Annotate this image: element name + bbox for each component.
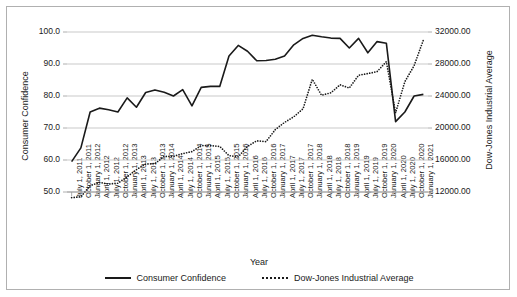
series-line-consumer-confidence <box>72 35 424 161</box>
plot-area <box>7 7 511 291</box>
chart-legend: Consumer Confidence Dow-Jones Industrial… <box>7 273 511 283</box>
gridlines <box>67 32 428 192</box>
legend-item-dow-jones: Dow-Jones Industrial Average <box>262 273 413 283</box>
legend-item-consumer-confidence: Consumer Confidence <box>105 273 227 283</box>
legend-dotted-line-icon <box>262 277 288 279</box>
legend-label: Consumer Confidence <box>137 273 227 283</box>
chart-container: Consumer Confidence Dow-Jones Industrial… <box>6 6 510 290</box>
legend-label: Dow-Jones Industrial Average <box>294 273 413 283</box>
legend-solid-line-icon <box>105 277 131 279</box>
axis-tickmarks <box>63 32 432 196</box>
